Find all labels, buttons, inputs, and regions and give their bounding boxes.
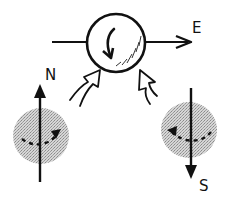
left-sphere: [13, 84, 69, 182]
center-sphere: [87, 14, 145, 72]
right-sphere: [161, 88, 217, 179]
diagram-canvas: E N S: [0, 0, 226, 203]
force-arrow-left: [70, 70, 100, 106]
label-south: S: [199, 177, 209, 195]
label-north: N: [45, 66, 56, 84]
force-arrow-right: [139, 70, 157, 104]
label-east: E: [192, 19, 201, 37]
